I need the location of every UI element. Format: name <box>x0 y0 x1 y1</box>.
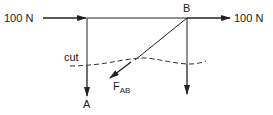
diagonal-member-ab <box>135 18 187 60</box>
right-force-label: 100 N <box>234 12 263 24</box>
cut-label: cut <box>64 51 79 63</box>
truss-diagram: 100 N 100 N B A FAB cut <box>0 0 273 115</box>
fab-label: FAB <box>113 80 130 95</box>
left-force-label: 100 N <box>4 12 33 24</box>
cut-line <box>70 58 206 66</box>
joint-b-label: B <box>183 2 190 14</box>
fab-force-arrow <box>110 62 131 78</box>
joint-a-label: A <box>83 98 91 110</box>
